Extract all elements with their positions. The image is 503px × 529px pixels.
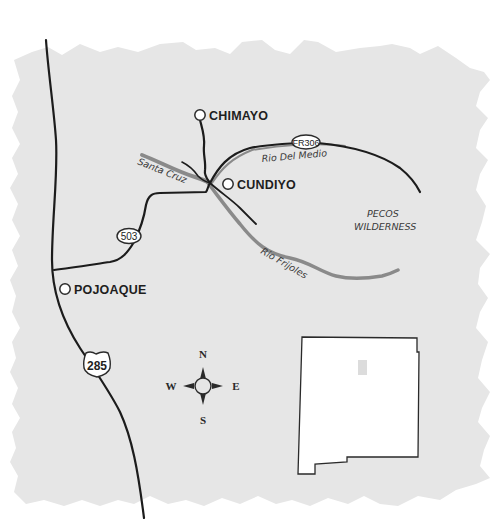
area-label-pecos-line1: PECOS bbox=[367, 208, 399, 219]
area-label-pecos-line2: WILDERNESS bbox=[354, 221, 416, 232]
route-shield-label: FR306 bbox=[292, 138, 319, 148]
compass-label-west: W bbox=[166, 380, 177, 392]
route-shield-503: 503 bbox=[117, 229, 141, 244]
compass-ring bbox=[195, 378, 211, 394]
town-marker-icon bbox=[195, 110, 205, 120]
town-label-cundiyo: CUNDIYO bbox=[237, 178, 296, 192]
town-label-pojoaque: POJOAQUE bbox=[74, 283, 146, 297]
route-shield-label: 285 bbox=[87, 359, 107, 373]
compass-label-east: E bbox=[232, 380, 239, 392]
route-shield-label: 503 bbox=[121, 231, 138, 242]
trail-map: CHIMAYO CUNDIYO POJOAQUE Santa Cruz Rio … bbox=[0, 0, 503, 529]
route-shield-fr306: FR306 bbox=[292, 135, 320, 149]
town-marker-icon bbox=[223, 179, 233, 189]
new-mexico-outline bbox=[298, 337, 419, 474]
study-area-highlight bbox=[358, 360, 367, 375]
town-label-chimayo: CHIMAYO bbox=[209, 109, 268, 123]
compass-label-north: N bbox=[199, 348, 207, 360]
route-shield-us-285: 285 bbox=[84, 352, 111, 377]
new-mexico-locator-inset bbox=[298, 337, 419, 474]
compass-label-south: S bbox=[200, 414, 206, 426]
town-marker-icon bbox=[60, 284, 70, 294]
